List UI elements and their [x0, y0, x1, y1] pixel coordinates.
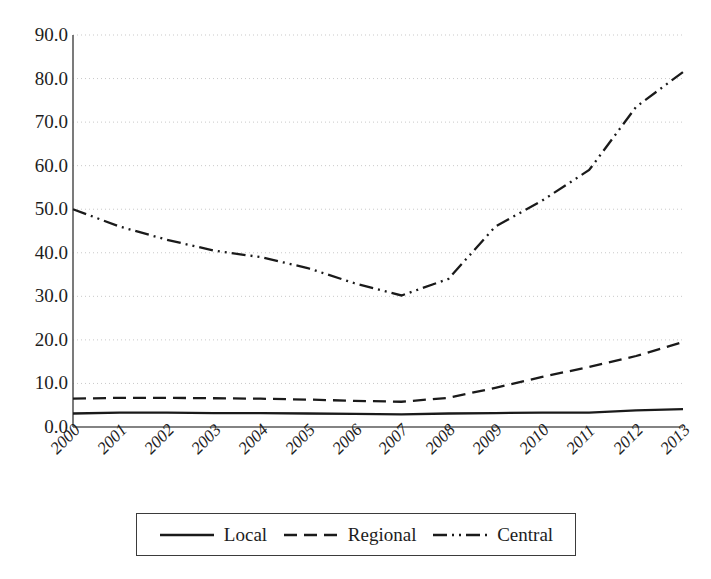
legend-item-local: Local: [159, 525, 267, 544]
x-tick-label: 2004: [235, 421, 271, 457]
x-tick-label: 2005: [282, 421, 318, 457]
x-tick-label: 2008: [422, 421, 458, 457]
x-tick-label: 2000: [47, 421, 83, 457]
legend-item-regional: Regional: [283, 525, 417, 544]
legend-item-central: Central: [432, 525, 553, 544]
x-tick-label: 2002: [141, 421, 177, 457]
x-tick-label: 2003: [188, 421, 224, 457]
solid-line-sample: [159, 528, 215, 542]
x-axis: 2000200120022003200420052006200720082009…: [0, 0, 711, 520]
line-chart: 0.010.020.030.040.050.060.070.080.090.0 …: [0, 0, 711, 579]
x-tick-label: 2007: [375, 421, 411, 457]
x-tick-label: 2001: [94, 421, 130, 457]
chart-legend: LocalRegionalCentral: [136, 513, 576, 556]
dashed-line-sample: [283, 528, 339, 542]
legend-label: Local: [224, 525, 267, 544]
x-tick-label: 2006: [329, 421, 365, 457]
x-tick-label: 2011: [563, 422, 598, 457]
x-tick-label: 2013: [657, 421, 693, 457]
dash-dot-dot-line-sample: [432, 528, 488, 542]
legend-label: Regional: [348, 525, 417, 544]
x-tick-label: 2012: [610, 421, 646, 457]
x-tick-label: 2009: [469, 421, 505, 457]
legend-label: Central: [497, 525, 553, 544]
x-tick-label: 2010: [516, 421, 552, 457]
